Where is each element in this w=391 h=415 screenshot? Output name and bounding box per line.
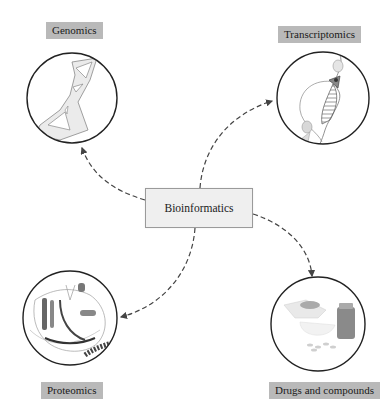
drugs-circle	[271, 277, 365, 371]
edge-to-transcriptomics	[200, 101, 272, 188]
transcriptomics-circle	[277, 52, 369, 160]
edge-to-genomics	[82, 148, 145, 200]
bioinformatics-label: Bioinformatics	[165, 202, 234, 214]
protein-structure-icon	[30, 283, 115, 355]
proteomics-circle	[23, 271, 117, 365]
genomics-label: Genomics	[46, 22, 103, 39]
dna-helix-icon	[35, 58, 97, 140]
drugs-and-compounds-label: Drugs and compounds	[269, 382, 380, 399]
edge-to-drugs	[253, 214, 312, 276]
bioinformatics-center-box: Bioinformatics	[145, 188, 253, 228]
edge-to-proteomics	[121, 228, 195, 317]
genomics-circle	[27, 53, 117, 143]
bioinformatics-diagram: Genomics Transcriptomics Proteomics Drug…	[0, 0, 391, 415]
transcriptomics-label: Transcriptomics	[278, 26, 361, 43]
mortar-pills-bottle-icon	[284, 300, 355, 352]
proteomics-label: Proteomics	[41, 382, 103, 399]
